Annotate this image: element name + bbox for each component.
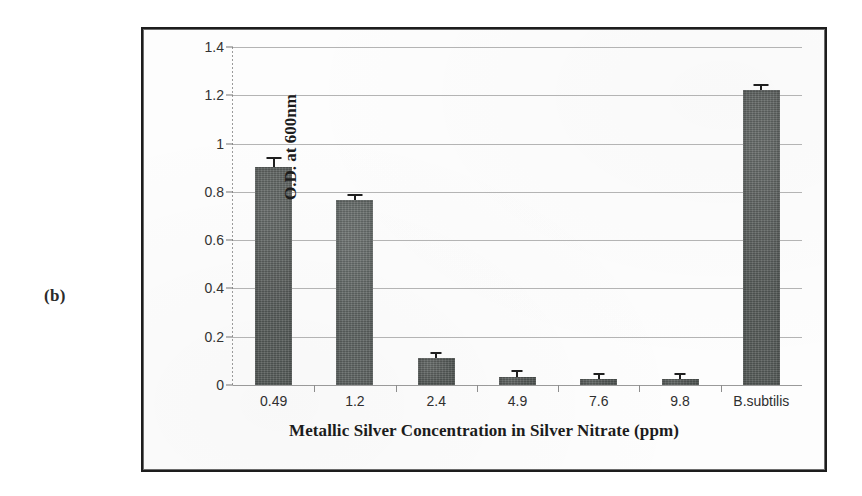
x-axis-tick-label: 1.2 [314, 393, 395, 409]
bar-slot [233, 47, 314, 385]
error-bar-cap [266, 157, 281, 159]
x-axis-tick-label: 7.6 [558, 393, 639, 409]
panel-label: (b) [44, 286, 66, 306]
bars-group [233, 47, 802, 385]
error-bar [598, 374, 600, 379]
plot-area: 00.20.40.60.811.21.4 O.D. at 600nm [233, 47, 802, 385]
y-axis-tick-mark [226, 288, 233, 289]
bar-slot [477, 47, 558, 385]
x-axis-tick-label: 0.49 [233, 393, 314, 409]
y-axis-tick-mark [226, 385, 233, 386]
error-bar [354, 195, 356, 201]
bar-slot [721, 47, 802, 385]
x-axis-tick-labels: 0.491.22.44.97.69.8B.subtilis [233, 393, 802, 409]
error-bar-cap [593, 373, 604, 375]
x-axis-tick-mark [314, 385, 315, 392]
y-axis-title: O.D. at 600nm [281, 47, 301, 247]
y-axis-tick-label: 0.4 [205, 280, 224, 296]
y-axis-tick-label: 0.6 [205, 232, 224, 248]
x-axis-tick-mark [477, 385, 478, 392]
error-bar [679, 374, 681, 379]
bar[interactable] [662, 379, 699, 385]
error-bar [516, 371, 518, 377]
figure-frame: 00.20.40.60.811.21.4 O.D. at 600nm 0.491… [141, 27, 827, 472]
y-axis-tick-mark [226, 240, 233, 241]
error-bar-cap [754, 84, 769, 86]
x-axis-tick-label: 4.9 [477, 393, 558, 409]
bar-slot [314, 47, 395, 385]
bar[interactable] [743, 90, 780, 385]
y-axis-tick-label: 0.2 [205, 329, 224, 345]
y-axis-tick-mark [226, 143, 233, 144]
bar-slot [558, 47, 639, 385]
y-axis-tick-mark [226, 336, 233, 337]
y-axis-tick-mark [226, 191, 233, 192]
error-bar-cap [675, 373, 686, 375]
gridline [233, 385, 802, 386]
y-axis-tick-label: 1.2 [205, 87, 224, 103]
x-axis-tick-mark [639, 385, 640, 392]
error-bar [273, 158, 275, 167]
x-axis-tick-mark [396, 385, 397, 392]
x-axis-tick-label: 9.8 [639, 393, 720, 409]
y-axis-tick-label: 1 [216, 136, 224, 152]
error-bar-cap [512, 370, 523, 372]
bar-slot [396, 47, 477, 385]
bar-slot [639, 47, 720, 385]
x-axis-tick-mark [558, 385, 559, 392]
y-axis-tick-mark [226, 95, 233, 96]
x-axis-tick-mark [721, 385, 722, 392]
y-axis-tick-label: 1.4 [205, 39, 224, 55]
x-axis-tick-label: B.subtilis [721, 393, 802, 409]
error-bar [435, 353, 437, 358]
y-axis-tick-label: 0 [216, 377, 224, 393]
y-axis-tick-label: 0.8 [205, 184, 224, 200]
error-bar-cap [347, 194, 362, 196]
bar[interactable] [580, 379, 617, 385]
bar[interactable] [418, 358, 455, 385]
bar[interactable] [336, 200, 373, 385]
x-axis-title: Metallic Silver Concentration in Silver … [143, 421, 825, 441]
error-bar-cap [431, 352, 442, 354]
x-axis-tick-label: 2.4 [396, 393, 477, 409]
bar[interactable] [499, 377, 536, 385]
error-bar [760, 85, 762, 90]
y-axis-tick-mark [226, 47, 233, 48]
